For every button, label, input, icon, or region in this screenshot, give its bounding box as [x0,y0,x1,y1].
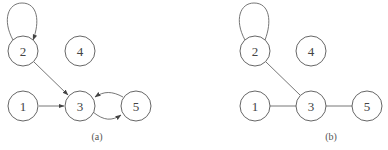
caption-a: (a) [91,131,102,143]
node-2: 2 [240,36,270,66]
node-1: 1 [8,91,38,121]
node-5: 5 [121,91,151,121]
node-4: 4 [65,36,95,66]
undirected-graph-panel: 2 4 1 3 5 (b) [239,3,382,143]
directed-graph-panel: 2 4 1 3 5 (a) [7,3,151,143]
node-4: 4 [296,36,326,66]
svg-text:3: 3 [77,99,84,114]
node-5: 5 [352,91,382,121]
node-2: 2 [8,36,38,66]
svg-text:2: 2 [252,44,259,59]
graph-figure: 2 4 1 3 5 (a) 2 4 [0,0,388,150]
svg-text:5: 5 [133,99,140,114]
edge-2-2-self-loop [239,3,269,40]
node-1: 1 [240,91,270,121]
svg-text:1: 1 [20,99,27,114]
svg-text:4: 4 [77,44,84,59]
svg-text:3: 3 [308,99,315,114]
edge-5-3 [95,93,123,98]
caption-b: (b) [325,131,337,143]
edge-2-2-self-loop [7,3,37,40]
node-3: 3 [65,91,95,121]
svg-text:4: 4 [308,44,315,59]
node-3: 3 [296,91,326,121]
edge-3-5 [93,112,121,119]
edge-2-3 [266,62,300,95]
svg-text:1: 1 [252,99,259,114]
svg-text:2: 2 [20,44,27,59]
edge-2-3 [34,62,68,95]
svg-text:5: 5 [364,99,371,114]
